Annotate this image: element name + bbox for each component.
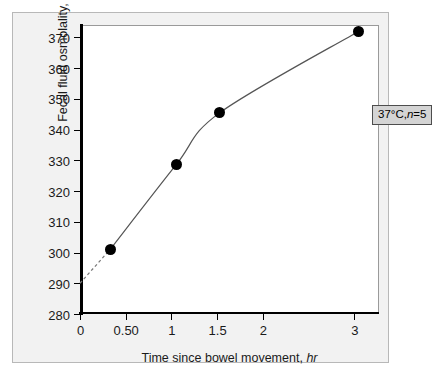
data-curve-layer — [80, 25, 379, 314]
x-tick-label: 3 — [351, 323, 358, 338]
annotation-text: 37°C, — [378, 108, 407, 120]
y-tick-label: 280 — [48, 307, 70, 322]
y-tick-label: 300 — [48, 246, 70, 261]
x-tick: 0.50 — [126, 314, 127, 320]
x-tick-label: 0 — [77, 323, 84, 338]
plot-area: 280290300310320330340350360370 00.5011.5… — [80, 25, 379, 314]
data-point — [171, 159, 182, 170]
x-tick-label: 2 — [260, 323, 267, 338]
extrapolation-dashed-line — [80, 249, 110, 283]
annotation-tail: =5 — [413, 108, 426, 120]
y-axis-label-text: Fecal fluid osmolality, — [56, 3, 70, 122]
x-tick: 1 — [171, 314, 172, 320]
data-point — [105, 244, 116, 255]
x-tick: 1.5 — [217, 314, 218, 320]
figure-panel: 280290300310320330340350360370 00.5011.5… — [12, 12, 389, 363]
y-tick-label: 310 — [48, 215, 70, 230]
x-tick-label: 1.5 — [209, 323, 227, 338]
x-tick: 3 — [354, 314, 355, 320]
x-tick: 0 — [80, 314, 81, 320]
y-tick-label: 290 — [48, 276, 70, 291]
x-tick: 2 — [263, 314, 264, 320]
x-axis-label-text: Time since bowel movement, — [141, 351, 302, 365]
y-tick-label: 320 — [48, 184, 70, 199]
condition-annotation: 37°C,n=5 — [372, 105, 432, 125]
x-tick-label: 0.50 — [114, 323, 139, 338]
data-point — [353, 26, 364, 37]
fitted-curve — [110, 31, 359, 249]
x-axis-label-units: hr — [306, 351, 317, 365]
y-axis-label: Fecal fluid osmolality, mOsm/kg — [54, 0, 72, 179]
x-axis-label: Time since bowel movement, hr — [80, 351, 379, 365]
x-tick-label: 1 — [168, 323, 175, 338]
